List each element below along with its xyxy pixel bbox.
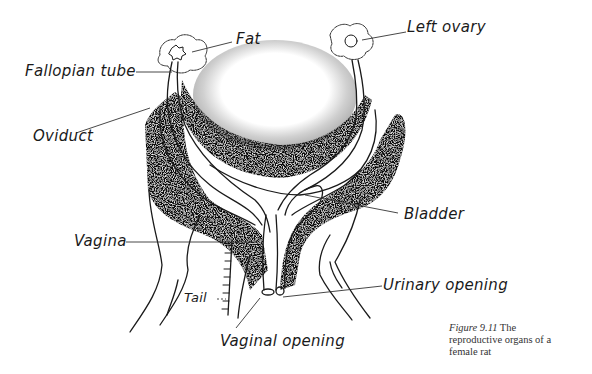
body-cavity xyxy=(193,40,357,150)
label-fat: Fat xyxy=(236,30,261,48)
label-fallopian-tube: Fallopian tube xyxy=(25,62,136,80)
label-left-ovary: Left ovary xyxy=(407,18,486,36)
label-bladder: Bladder xyxy=(404,205,464,223)
caption-line2: reproductive organs of a xyxy=(449,334,551,346)
reproductive-organs-illustration xyxy=(0,0,592,374)
figure-number: Figure 9.11 xyxy=(449,322,497,333)
label-urinary-opening: Urinary opening xyxy=(383,276,508,294)
label-vagina: Vagina xyxy=(74,232,127,250)
figure-caption: Figure 9.11 The reproductive organs of a… xyxy=(449,322,551,358)
leader-left-ovary xyxy=(362,32,406,40)
caption-line3: female rat xyxy=(449,346,551,358)
caption-line1: The xyxy=(500,322,516,333)
leader-fat xyxy=(192,42,232,52)
label-tail: Tail xyxy=(184,290,207,305)
label-vaginal-opening: Vaginal opening xyxy=(220,332,345,350)
label-oviduct: Oviduct xyxy=(33,127,93,145)
